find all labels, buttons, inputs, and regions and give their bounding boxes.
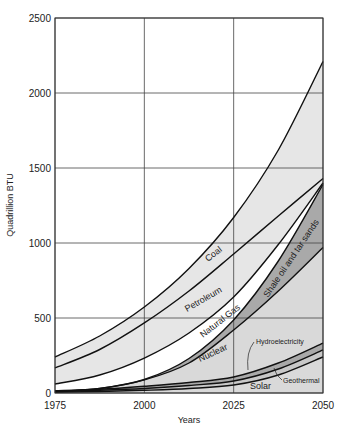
y-axis-ticks: 05001000150020002500 xyxy=(29,13,52,399)
x-axis-label: Years xyxy=(178,415,201,425)
y-tick-label: 1000 xyxy=(29,238,52,249)
label-hydro: Hydroelectricity xyxy=(256,338,304,346)
y-axis-label: Quadrillion BTU xyxy=(5,173,15,237)
x-tick-label: 2050 xyxy=(312,400,335,411)
y-tick-label: 500 xyxy=(34,313,51,324)
x-tick-label: 2000 xyxy=(133,400,156,411)
x-axis-ticks: 1975200020252050 xyxy=(44,400,335,411)
y-tick-label: 2000 xyxy=(29,88,52,99)
x-tick-label: 1975 xyxy=(44,400,67,411)
y-tick-label: 0 xyxy=(45,388,51,399)
label-geothermal: Geothermal xyxy=(283,377,320,384)
x-tick-label: 2025 xyxy=(223,400,246,411)
y-tick-label: 2500 xyxy=(29,13,52,24)
label-solar: Solar xyxy=(250,381,271,391)
energy-chart: 05001000150020002500 1975200020252050 Ye… xyxy=(0,0,339,431)
y-tick-label: 1500 xyxy=(29,163,52,174)
